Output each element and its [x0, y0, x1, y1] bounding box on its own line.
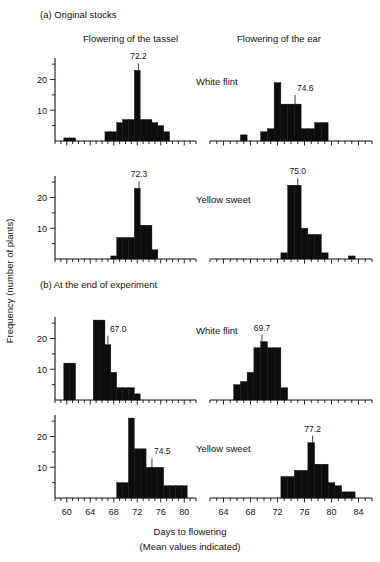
x-axis-title-line2: (Mean values indicated): [140, 541, 241, 552]
bar: [274, 348, 281, 400]
bar: [117, 123, 123, 141]
axis-b-ear-white-flint: [210, 400, 372, 405]
bar: [117, 483, 123, 498]
y-axis-b-tassel-yellow-sweet: 1020: [37, 415, 55, 498]
x-tick-label: 68: [245, 507, 255, 517]
bar: [328, 483, 335, 498]
bar: [111, 372, 117, 400]
bar: [70, 363, 76, 400]
bar: [146, 225, 152, 259]
bar: [261, 342, 268, 400]
series-label-a-yellow-sweet: Yellow sweet: [196, 194, 251, 205]
figure-container: (a) Original stocks Flowering of the tas…: [0, 0, 380, 562]
bar: [117, 237, 123, 259]
bar: [134, 394, 140, 400]
mean-annotation-b-tassel-yellow-sweet: 74.5: [152, 446, 171, 467]
column-title-tassel: Flowering of the tassel: [83, 33, 178, 44]
series-label-b-yellow-sweet: Yellow sweet: [196, 443, 251, 454]
y-tick-label: 20: [37, 334, 47, 344]
y-axis-a-tassel-white-flint: 1020: [37, 58, 55, 141]
y-axis-a-tassel-yellow-sweet: 1020: [37, 176, 55, 259]
bar: [247, 372, 254, 400]
x-tick-label: 64: [85, 507, 95, 517]
bar: [64, 363, 70, 400]
bar: [308, 443, 315, 498]
bar: [301, 129, 308, 141]
bar: [281, 104, 288, 141]
bar: [152, 250, 158, 259]
bar: [261, 132, 268, 141]
bar: [315, 123, 322, 141]
x-tick-label: 72: [132, 507, 142, 517]
bar: [240, 135, 247, 141]
x-tick-label: 80: [326, 507, 336, 517]
mean-value-label: 72.2: [130, 51, 147, 61]
bar: [128, 237, 134, 259]
x-tick-label: 80: [179, 507, 189, 517]
axis-a-ear-yellow-sweet: [210, 259, 372, 264]
bar: [321, 253, 328, 259]
mean-annotation-b-tassel-white-flint: 67.0: [108, 324, 127, 345]
x-tick-label: 76: [299, 507, 309, 517]
y-tick-label: 10: [37, 463, 47, 473]
mean-annotation-b-ear-yellow-sweet: 77.2: [304, 424, 321, 443]
bar: [105, 132, 111, 141]
bar: [123, 119, 129, 141]
bar: [240, 382, 247, 400]
mean-value-label: 74.6: [297, 83, 314, 93]
bar: [321, 464, 328, 498]
axis-b-tassel-yellow-sweet: [55, 498, 196, 503]
bar: [308, 129, 315, 141]
y-axis-title: Frequency (number of plants): [4, 219, 15, 344]
bar: [146, 119, 152, 141]
y-tick-label: 20: [37, 432, 47, 442]
bar: [93, 320, 99, 400]
y-tick-label: 10: [37, 365, 47, 375]
bar: [267, 348, 274, 400]
bar: [158, 126, 164, 141]
section-label-a: (a) Original stocks: [40, 9, 117, 20]
x-tick-label: 60: [62, 507, 72, 517]
bar: [123, 237, 129, 259]
bar: [146, 467, 152, 498]
bar: [274, 83, 281, 141]
x-tick-label: 68: [109, 507, 119, 517]
y-tick-label: 10: [37, 106, 47, 116]
bar: [140, 449, 146, 498]
bar: [308, 234, 315, 259]
mean-annotation-a-tassel-yellow-sweet: 72.3: [131, 169, 148, 188]
mean-annotation-b-ear-white-flint: 69.7: [254, 323, 271, 342]
axis-a-tassel-white-flint: [55, 141, 196, 146]
bar: [111, 132, 117, 141]
bar: [348, 492, 355, 498]
x-tick-label: 76: [156, 507, 166, 517]
mean-annotation-a-ear-white-flint: 74.6: [295, 83, 314, 104]
bar: [128, 388, 134, 400]
bar: [342, 492, 349, 498]
bar: [294, 185, 301, 259]
bar: [288, 104, 295, 141]
mean-value-label: 74.5: [154, 446, 171, 456]
bar: [288, 476, 295, 498]
bar: [140, 225, 146, 259]
histogram-a-ear-white-flint: [240, 83, 328, 141]
bar: [281, 253, 288, 259]
bar: [99, 320, 105, 400]
bar: [181, 486, 187, 498]
bar: [294, 104, 301, 141]
axis-b-tassel-white-flint: [55, 400, 196, 405]
bar: [321, 123, 328, 141]
column-title-ear: Flowering of the ear: [237, 33, 321, 44]
bar: [152, 467, 158, 498]
axis-a-tassel-yellow-sweet: [55, 259, 196, 264]
histogram-a-tassel-white-flint: [64, 70, 170, 141]
x-tick-label: 64: [218, 507, 228, 517]
histogram-b-ear-white-flint: [234, 342, 288, 400]
bar: [134, 188, 140, 259]
bar: [105, 345, 111, 400]
bar: [140, 119, 146, 141]
bar: [301, 470, 308, 498]
bar: [164, 132, 170, 141]
bar: [294, 470, 301, 498]
bar: [123, 388, 129, 400]
